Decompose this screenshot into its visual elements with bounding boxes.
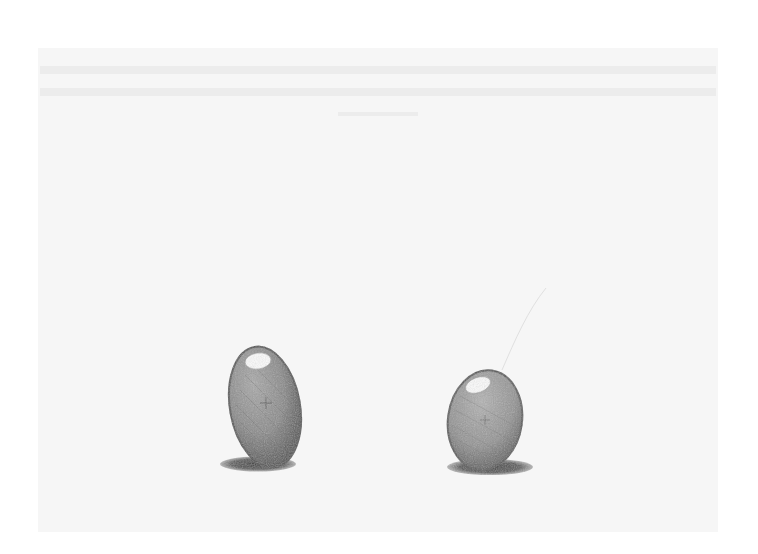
left-egg (220, 341, 310, 473)
right-egg (441, 365, 533, 475)
pencil-guide-stroke (502, 288, 546, 370)
